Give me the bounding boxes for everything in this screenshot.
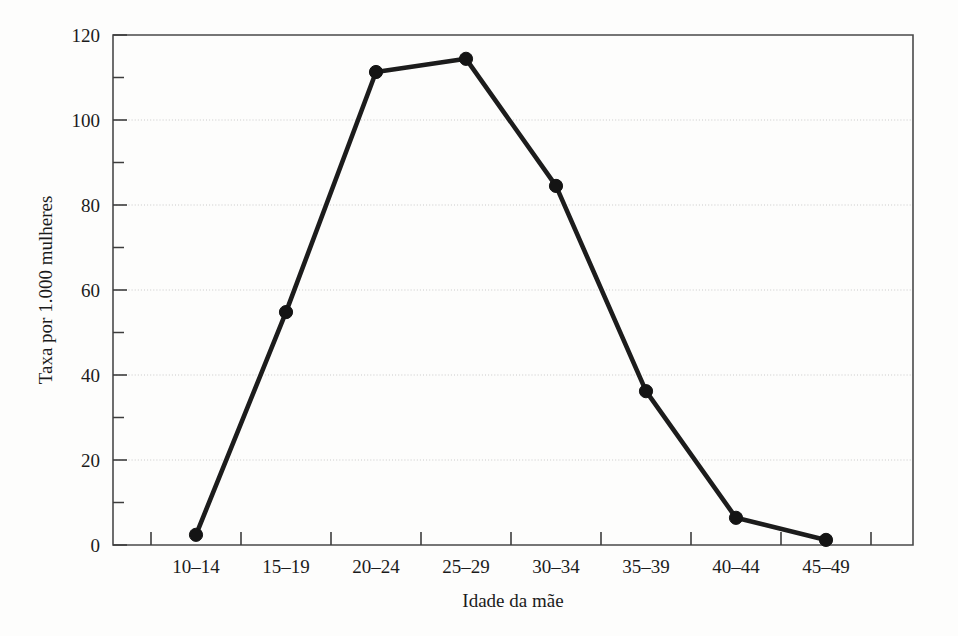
data-point-15-19 <box>279 306 292 319</box>
data-point-30-34 <box>549 179 562 192</box>
data-point-35-39 <box>639 385 652 398</box>
x-tick-label-20-24: 20–24 <box>352 556 400 577</box>
x-tick-label-40-44: 40–44 <box>712 556 760 577</box>
y-tick-label-20: 20 <box>81 450 100 471</box>
y-axis-tick-labels: 120 100 80 60 40 20 0 <box>72 25 101 556</box>
series-polyline <box>196 59 826 540</box>
x-axis-title: Idade da mãe <box>462 590 563 611</box>
series-group <box>189 52 832 546</box>
y-axis-major-ticks <box>113 35 127 545</box>
y-tick-label-40: 40 <box>81 365 100 386</box>
grid-lines <box>113 120 913 460</box>
chart-page: 120 100 80 60 40 20 0 10–14 15–19 20–24 … <box>0 0 958 636</box>
y-tick-label-0: 0 <box>91 535 101 556</box>
data-point-45-49 <box>819 533 832 546</box>
x-tick-label-45-49: 45–49 <box>802 556 850 577</box>
data-point-40-44 <box>729 511 742 524</box>
y-tick-label-60: 60 <box>81 280 100 301</box>
x-tick-label-15-19: 15–19 <box>262 556 310 577</box>
y-tick-label-80: 80 <box>81 195 100 216</box>
x-axis-ticks <box>151 532 871 545</box>
x-tick-label-10-14: 10–14 <box>172 556 220 577</box>
x-axis-tick-labels: 10–14 15–19 20–24 25–29 30–34 35–39 40–4… <box>172 556 850 577</box>
data-point-25-29 <box>459 52 472 65</box>
line-chart: 120 100 80 60 40 20 0 10–14 15–19 20–24 … <box>0 0 958 636</box>
y-tick-label-100: 100 <box>72 110 101 131</box>
data-point-20-24 <box>369 65 382 78</box>
x-tick-label-35-39: 35–39 <box>622 556 670 577</box>
data-point-10-14 <box>189 528 202 541</box>
x-tick-label-30-34: 30–34 <box>532 556 580 577</box>
y-tick-label-120: 120 <box>72 25 101 46</box>
y-axis-title: Taxa por 1.000 mulheres <box>35 196 56 385</box>
x-tick-label-25-29: 25–29 <box>442 556 490 577</box>
